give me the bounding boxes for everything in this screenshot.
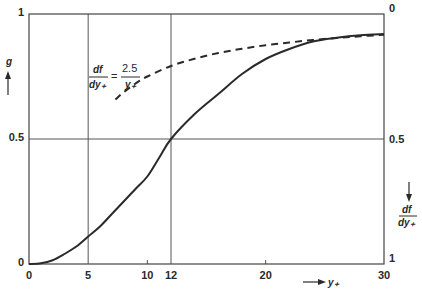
svg-text:dy₊: dy₊ <box>89 79 107 90</box>
y-right-tick-0: 0 <box>389 2 395 14</box>
equation-annotation: df dy₊ = 2.5 y₊ <box>89 62 140 90</box>
y-right-label-num: df <box>402 204 413 215</box>
x-tick-10: 10 <box>141 269 153 281</box>
svg-text:df: df <box>93 64 104 75</box>
y-left-label: g <box>5 56 12 67</box>
x-tick-12: 12 <box>165 269 177 281</box>
x-tick-30: 30 <box>378 269 390 281</box>
y-left-tick-1: 1 <box>18 6 24 18</box>
chart: 051012203000.5110.50 g df dy₊ y₊ df dy₊ … <box>0 0 422 299</box>
y-right-tick-0.5: 0.5 <box>389 133 404 145</box>
y-right-label-den: dy₊ <box>398 217 416 228</box>
svg-text:y₊: y₊ <box>124 79 137 90</box>
up-arrow-icon <box>5 71 11 95</box>
x-axis-label: y₊ <box>327 277 340 288</box>
tick-labels: 051012203000.5110.50 <box>9 2 405 281</box>
y-left-tick-0.5: 0.5 <box>9 131 24 143</box>
x-tick-0: 0 <box>26 269 32 281</box>
x-tick-5: 5 <box>85 269 91 281</box>
down-arrow-icon <box>406 182 412 202</box>
y-right-tick-1: 1 <box>389 252 395 264</box>
g-curve <box>29 34 384 264</box>
df-dy-curve <box>115 35 384 100</box>
svg-text:2.5: 2.5 <box>122 62 137 74</box>
right-arrow-icon <box>303 279 326 285</box>
gridlines <box>29 14 384 264</box>
svg-text:=: = <box>111 70 117 82</box>
y-left-tick-0: 0 <box>18 256 24 268</box>
x-tick-20: 20 <box>260 269 272 281</box>
